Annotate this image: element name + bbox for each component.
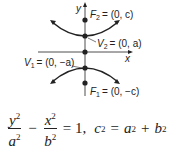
x-axis-label: x [124, 53, 131, 64]
hyperbola-diagram: y x F2= (0, c) V2= (0, a) V1= (0, −a) F1… [0, 0, 169, 105]
fraction-y-over-a: y2 a2 [8, 108, 21, 149]
y-axis-label: y [75, 3, 82, 14]
focus-f2 [82, 17, 87, 22]
vertex-v1 [82, 65, 87, 70]
v1-label: V1= (0, −a) [24, 57, 74, 69]
center-point [82, 49, 87, 54]
focus-f1 [82, 80, 87, 85]
fraction-x-over-b: x2 b2 [44, 108, 57, 149]
hyperbola-equation: y2 a2 − x2 b2 = 1, c2 = a2 + b2 [6, 108, 166, 149]
f2-label: F2= (0, c) [90, 9, 133, 21]
f1-label: F1= (0, −c) [90, 86, 139, 98]
vertex-v2 [82, 33, 87, 38]
v2-label: V2= (0, a) [97, 38, 142, 50]
y-axis-arrow-icon [83, 2, 87, 7]
leader-line [88, 38, 96, 42]
